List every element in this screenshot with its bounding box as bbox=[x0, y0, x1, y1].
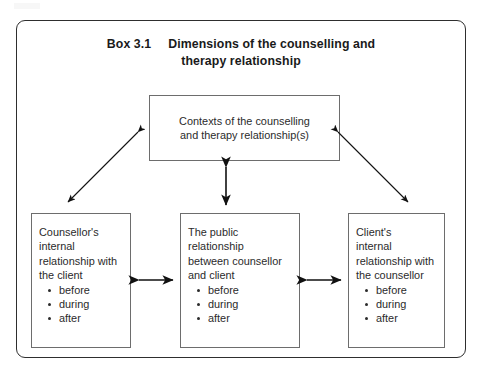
list-item: after bbox=[365, 311, 444, 325]
connector-contexts-to-client-icon bbox=[330, 124, 416, 210]
figure-title-text-line-1: Dimensions of the counselling and bbox=[168, 37, 375, 51]
list-item: after bbox=[48, 311, 130, 325]
node-contexts-line-2: and therapy relationship(s) bbox=[179, 128, 310, 142]
node-public-line-2: relationship bbox=[188, 239, 299, 253]
list-item: during bbox=[48, 297, 130, 311]
node-counsellor-bullet-list: before during after bbox=[39, 283, 130, 326]
node-contexts-line-1: Contexts of the counselling bbox=[179, 114, 310, 128]
node-client-bullet-list: before during after bbox=[356, 283, 444, 326]
connector-counsellor-to-public-icon bbox=[134, 272, 178, 288]
figure-title: Box 3.1Dimensions of the counselling and… bbox=[16, 36, 466, 69]
figure-title-line-2: therapy relationship bbox=[16, 53, 466, 70]
figure-box-number: Box 3.1 bbox=[107, 37, 151, 51]
list-item: after bbox=[197, 311, 299, 325]
connector-contexts-to-counsellor-icon bbox=[60, 124, 146, 210]
scan-artifact bbox=[14, 3, 40, 9]
node-client-line-1: Client's bbox=[356, 225, 444, 239]
node-contexts-text: Contexts of the counselling and therapy … bbox=[173, 114, 316, 143]
node-contexts: Contexts of the counselling and therapy … bbox=[149, 95, 340, 161]
connector-contexts-to-public-icon bbox=[218, 162, 234, 210]
node-public-line-1: The public bbox=[188, 225, 299, 239]
list-item: during bbox=[365, 297, 444, 311]
list-item: before bbox=[365, 283, 444, 297]
node-client-line-3: relationship with bbox=[356, 254, 444, 268]
node-client-line-2: internal bbox=[356, 239, 444, 253]
list-item: during bbox=[197, 297, 299, 311]
node-counsellor-line-1: Counsellor's bbox=[39, 225, 130, 239]
node-public-bullet-list: before during after bbox=[188, 283, 299, 326]
list-item: before bbox=[197, 283, 299, 297]
node-counsellor-line-3: relationship with bbox=[39, 254, 130, 268]
list-item: before bbox=[48, 283, 130, 297]
node-client-line-4: the counsellor bbox=[356, 268, 444, 282]
node-counsellor-line-4: the client bbox=[39, 268, 130, 282]
node-counsellor-internal-relationship: Counsellor's internal relationship with … bbox=[31, 213, 131, 348]
figure-title-line-1: Box 3.1Dimensions of the counselling and bbox=[16, 36, 466, 53]
node-public-line-4: and client bbox=[188, 268, 299, 282]
node-counsellor-line-2: internal bbox=[39, 239, 130, 253]
node-public-line-3: between counsellor bbox=[188, 254, 299, 268]
node-client-internal-relationship: Client's internal relationship with the … bbox=[348, 213, 445, 348]
connector-public-to-client-icon bbox=[302, 272, 346, 288]
node-public-relationship: The public relationship between counsell… bbox=[180, 213, 300, 348]
